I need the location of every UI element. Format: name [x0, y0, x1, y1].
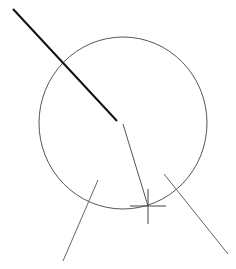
drawing-canvas[interactable] — [0, 0, 236, 269]
line-entity-bottom-right[interactable] — [164, 174, 228, 254]
radius-line-entity[interactable] — [123, 124, 148, 206]
crosshair-icon — [130, 189, 166, 224]
rubber-band-line — [13, 9, 117, 121]
drawing-surface[interactable] — [0, 0, 236, 269]
line-entity-bottom-left[interactable] — [63, 180, 98, 261]
